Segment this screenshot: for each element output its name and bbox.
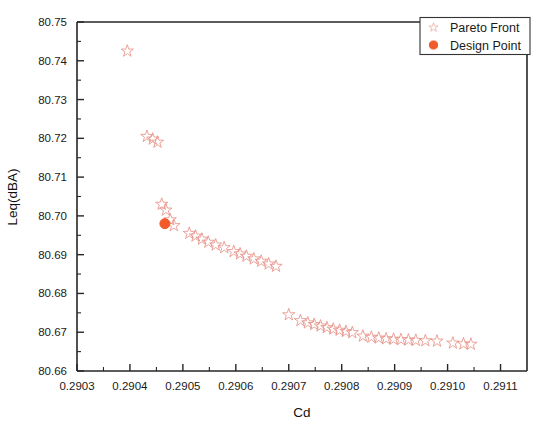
pareto-point-marker	[283, 308, 295, 320]
y-tick-label: 80.67	[38, 326, 67, 338]
x-tick-label: 0.2909	[377, 380, 412, 392]
y-tick-label: 80.75	[38, 16, 67, 28]
pareto-point-marker	[294, 314, 306, 326]
x-tick-label: 0.2907	[271, 380, 306, 392]
series-design-point	[160, 219, 170, 229]
y-axis-title: Leq(dBA)	[5, 168, 20, 225]
x-tick-label: 0.2904	[112, 380, 148, 392]
y-tick-label: 80.71	[38, 171, 67, 183]
y-tick-label: 80.74	[38, 55, 67, 67]
y-tick-label: 80.73	[38, 94, 67, 106]
design-point-marker	[160, 219, 170, 229]
y-tick-label: 80.68	[38, 287, 67, 299]
legend-label-pareto-front: Pareto Front	[450, 21, 520, 35]
pareto-point-marker	[121, 45, 133, 57]
x-tick-label: 0.2903	[59, 380, 94, 392]
scatter-chart-figure: 80.6680.6780.6880.6980.7080.7180.7280.73…	[0, 0, 537, 429]
pareto-point-marker	[346, 326, 358, 338]
plot-canvas: 80.6680.6780.6880.6980.7080.7180.7280.73…	[0, 0, 537, 429]
series-pareto-front	[121, 45, 477, 350]
legend: Pareto Front Design Point	[420, 18, 530, 55]
x-tick-label: 0.2908	[324, 380, 359, 392]
y-tick-label: 80.69	[38, 249, 67, 261]
legend-circle-filled-icon	[429, 41, 437, 49]
x-tick-label: 0.2910	[430, 380, 465, 392]
y-tick-label: 80.70	[38, 210, 67, 222]
x-tick-label: 0.2911	[483, 380, 517, 392]
x-axis-ticks: 0.29030.29040.29050.29060.29070.29080.29…	[59, 364, 517, 392]
pareto-point-marker	[431, 335, 443, 347]
y-tick-label: 80.66	[38, 365, 67, 377]
legend-label-design-point: Design Point	[450, 39, 521, 53]
pareto-point-marker	[419, 334, 431, 346]
data-points-layer	[121, 45, 477, 350]
pareto-point-marker	[447, 337, 459, 349]
x-tick-label: 0.2906	[218, 380, 253, 392]
y-tick-label: 80.72	[38, 132, 67, 144]
x-tick-label: 0.2905	[165, 380, 200, 392]
x-axis-title: Cd	[293, 405, 310, 420]
